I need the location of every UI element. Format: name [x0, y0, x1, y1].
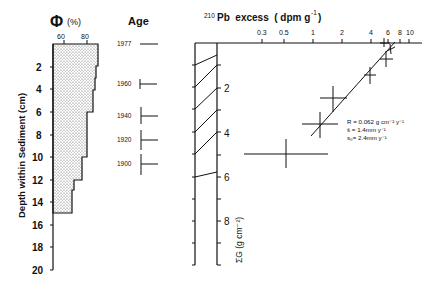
sigma-tick-2: 2: [224, 83, 230, 94]
svg-text:8: 8: [36, 130, 42, 141]
porosity-x-axis: 60 80: [57, 33, 89, 44]
svg-text:8: 8: [398, 29, 402, 36]
age-title: Age: [128, 15, 149, 27]
depth-ticks: 2 4 6 8 10 12 14 16 18 20: [32, 62, 53, 276]
rate-annotation: R = 0.062 g cm⁻² y⁻¹ s̄ = 1.4mm y⁻¹ s₀= …: [347, 118, 404, 141]
svg-text:2: 2: [36, 62, 42, 73]
svg-text:14: 14: [32, 197, 44, 208]
pb-title-superscript: 210: [204, 12, 215, 19]
svg-text:4: 4: [36, 84, 42, 95]
age-panel: Age 1977 1960 1940 1920 1900: [117, 15, 158, 175]
age-1977: 1977: [117, 40, 132, 47]
porosity-profile-area: [53, 44, 98, 213]
svg-text:4: 4: [369, 29, 373, 36]
data-point-4: [364, 67, 376, 84]
pb-title-exponent: -1: [311, 9, 317, 16]
tick-label-60: 60: [57, 33, 65, 40]
age-1960: 1960: [117, 80, 132, 87]
pb-excess-panel: 210 Pb excess ( dpm g -1 ) 0.3 0.5 1 2 4…: [204, 9, 414, 168]
svg-text:12: 12: [32, 175, 44, 186]
svg-text:20: 20: [32, 265, 44, 276]
svg-text:2: 2: [340, 29, 344, 36]
pb-data-points: [244, 38, 395, 168]
age-1940: 1940: [117, 112, 132, 119]
sigma-axis-label: ΣG (g cm⁻²): [234, 217, 244, 263]
sigma-tick-8: 8: [224, 216, 230, 227]
porosity-title-unit: (%): [67, 17, 81, 27]
data-point-5: [320, 86, 347, 112]
age-1920: 1920: [117, 136, 132, 143]
svg-text:16: 16: [32, 220, 44, 231]
svg-text:18: 18: [32, 242, 44, 253]
svg-text:1: 1: [311, 29, 315, 36]
depth-axis-label: Depth within Sediment (cm): [16, 93, 27, 218]
pb-x-ticks: 0.3 0.5 1 2 4 6 8 10: [257, 29, 414, 43]
tick-label-80: 80: [81, 33, 89, 40]
annotation-line-2: s̄ = 1.4mm y⁻¹: [347, 126, 386, 133]
annotation-line-3: s₀= 2.4mm y⁻¹: [347, 134, 387, 141]
annotation-line-1: R = 0.062 g cm⁻² y⁻¹: [347, 118, 404, 125]
pb-title-close: ): [318, 12, 321, 23]
porosity-panel: Φ (%) 60 80 2 4 6 8 10 12 14 16 18 20 De…: [16, 13, 98, 276]
age-1900: 1900: [117, 160, 132, 167]
sigma-tick-4: 4: [224, 128, 230, 139]
depth-mass-connectors: [195, 55, 217, 177]
svg-text:10: 10: [406, 29, 414, 36]
svg-text:6: 6: [36, 107, 42, 118]
data-point-6: [302, 112, 338, 138]
svg-text:0.5: 0.5: [279, 29, 289, 36]
porosity-title-symbol: Φ: [50, 13, 63, 30]
pb-title: Pb excess ( dpm g: [217, 12, 310, 23]
svg-text:0.3: 0.3: [257, 29, 267, 36]
figure-canvas: Φ (%) 60 80 2 4 6 8 10 12 14 16 18 20 De…: [0, 0, 441, 289]
data-point-7: [244, 139, 328, 168]
svg-text:6: 6: [386, 29, 390, 36]
sigma-tick-6: 6: [224, 172, 230, 183]
svg-text:10: 10: [32, 152, 44, 163]
